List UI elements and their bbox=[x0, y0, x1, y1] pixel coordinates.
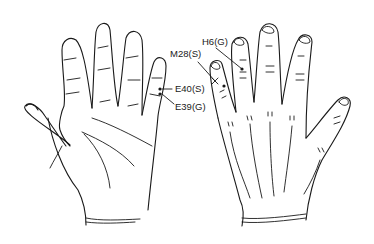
point-label-h6: H6(G) bbox=[202, 37, 228, 47]
point-label-m28: M28(S) bbox=[170, 49, 201, 59]
right-hand-dorsum bbox=[198, 24, 350, 226]
hand-diagram: E40(S) E39(G) M28(S) H6(G) bbox=[0, 0, 374, 244]
point-label-e40: E40(S) bbox=[175, 84, 205, 94]
hands-drawing bbox=[0, 0, 374, 244]
point-label-e39: E39(G) bbox=[175, 102, 206, 112]
left-hand-palm bbox=[25, 23, 174, 225]
